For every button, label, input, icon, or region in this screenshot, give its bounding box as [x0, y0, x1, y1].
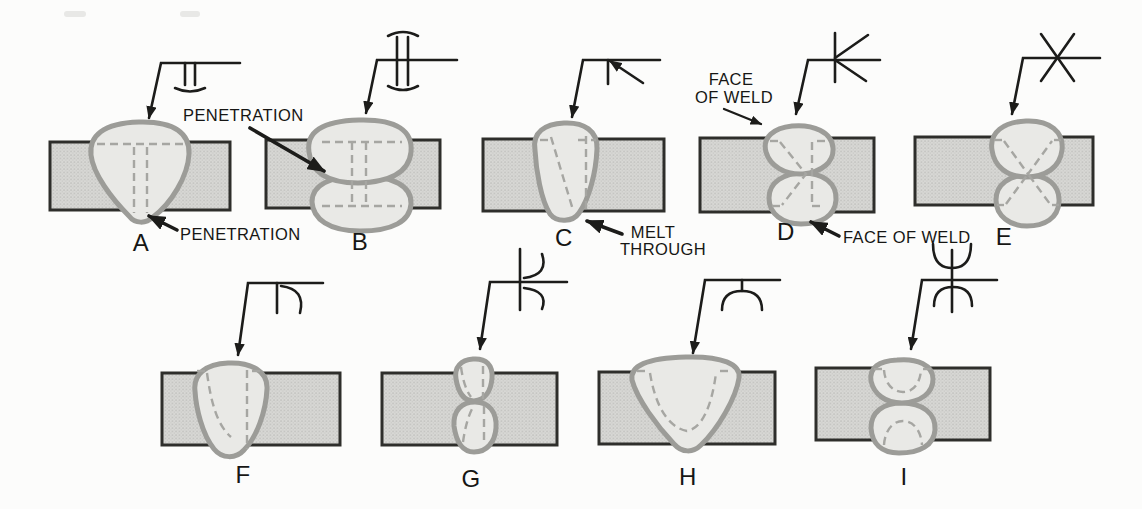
melt-through-label-line2: THROUGH: [620, 240, 706, 258]
panel-label-e: E: [996, 223, 1013, 250]
single-j-groove-symbol-icon: [238, 283, 323, 355]
face-of-weld-bottom-arrow: [811, 222, 839, 236]
penetration-top-label: PENETRATION: [183, 106, 304, 124]
face-of-weld-top-label-line2: OF WELD: [695, 88, 773, 106]
welding-diagram-figure: PENETRATION PENETRATION MELT THROUGH FAC…: [0, 0, 1142, 509]
panel-label-b: B: [352, 228, 369, 255]
melt-through-arrow: [587, 221, 622, 234]
panel-label-d: D: [777, 218, 795, 245]
double-u-groove-symbol-icon: [911, 244, 997, 349]
scan-artifact-marks: [64, 11, 200, 17]
panel-label-c: C: [555, 224, 573, 251]
penetration-bottom-arrow: [149, 216, 177, 230]
diagram-canvas: PENETRATION PENETRATION MELT THROUGH FAC…: [0, 0, 1142, 509]
face-of-weld-bottom-label: FACE OF WELD: [843, 228, 971, 246]
panel-label-a: A: [133, 229, 150, 256]
double-square-groove-melt-through-symbol-icon: [366, 32, 457, 113]
panel-label-i: I: [900, 463, 907, 490]
panel-label-g: G: [461, 465, 480, 492]
weld-bead-b-top: [309, 120, 412, 183]
melt-through-label-line1: MELT: [631, 223, 675, 241]
weld-bead-d-bottom: [769, 173, 836, 224]
weld-bead-e-top: [992, 121, 1063, 177]
single-bevel-groove-symbol-icon: [572, 60, 660, 117]
panel-label-h: H: [679, 463, 697, 490]
weld-bead-g-bottom: [454, 402, 496, 452]
single-u-groove-symbol-icon: [693, 280, 780, 353]
face-of-weld-top-label-line1: FACE: [709, 70, 754, 88]
penetration-bottom-label: PENETRATION: [180, 225, 301, 243]
weld-bead-g-top: [456, 359, 492, 401]
panel-label-f: F: [235, 461, 250, 488]
weld-bead-i-bottom: [871, 403, 935, 453]
double-j-groove-symbol-icon: [480, 249, 567, 349]
weld-bead-e-bottom: [996, 175, 1059, 226]
weld-bead-i-top: [871, 360, 933, 403]
face-of-weld-top-arrow: [724, 109, 761, 124]
double-v-groove-symbol-icon: [1012, 34, 1100, 114]
panel-letters: A B C D E F G H I: [133, 218, 1013, 492]
double-bevel-groove-symbol-icon: [796, 33, 880, 114]
